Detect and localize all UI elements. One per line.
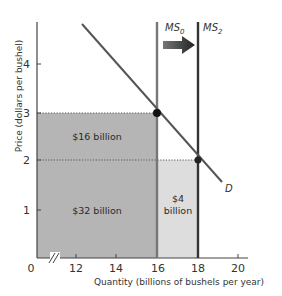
shift-arrow-icon — [163, 36, 195, 54]
equilibrium-point-ms0 — [153, 109, 161, 117]
region-32-billion-label: $32 billion — [72, 205, 122, 216]
x-tick-label-20: 20 — [231, 262, 245, 275]
y-tick-label-2: 2 — [23, 154, 30, 167]
y-axis-title: Price (dollars per bushel) — [14, 40, 24, 152]
region-4-billion-label-line1: $4 — [172, 193, 184, 204]
y-tick-label-1: 1 — [23, 204, 30, 217]
region-4-billion-label-line2: billion — [164, 205, 192, 216]
demand-label: D — [225, 183, 233, 194]
y-tick-label-4: 4 — [23, 58, 30, 71]
equilibrium-point-ms2 — [195, 157, 202, 164]
x-tick-label-16: 16 — [151, 262, 165, 275]
axis-break-icon — [49, 252, 60, 263]
x-axis-title: Quantity (billions of bushels per year) — [94, 277, 264, 287]
x-tick-label-18: 18 — [191, 262, 205, 275]
ms2-label: MS2 — [203, 22, 223, 36]
x-tick-label-12: 12 — [69, 262, 83, 275]
ms0-label: MS0 — [165, 22, 185, 36]
region-16-billion-label: $16 billion — [72, 131, 122, 142]
y-tick-label-3: 3 — [23, 107, 30, 120]
origin-label: 0 — [28, 262, 35, 275]
chart: MS0 MS2 D $16 billion $32 billion $4 bil… — [0, 0, 282, 296]
x-tick-label-14: 14 — [109, 262, 123, 275]
